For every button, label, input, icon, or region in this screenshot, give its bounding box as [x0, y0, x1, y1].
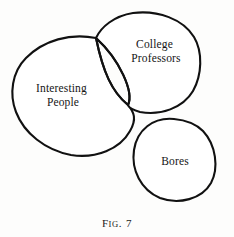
figure-caption-rest: IG [109, 219, 119, 229]
figure-caption-separator: . [119, 217, 122, 229]
euler-diagram: Interesting People College Professors Bo… [0, 0, 234, 237]
figure-caption-number: 7 [126, 217, 132, 229]
label-interesting-people-line2: People [47, 96, 79, 109]
label-bores: Bores [161, 155, 189, 167]
figure-container: Interesting People College Professors Bo… [0, 0, 234, 237]
label-college-professors-line2: Professors [131, 52, 181, 64]
label-bores-line1: Bores [161, 155, 189, 167]
label-interesting-people-line1: Interesting [36, 82, 87, 95]
figure-caption: FIG. 7 [0, 217, 234, 229]
label-college-professors-line1: College [136, 38, 173, 51]
